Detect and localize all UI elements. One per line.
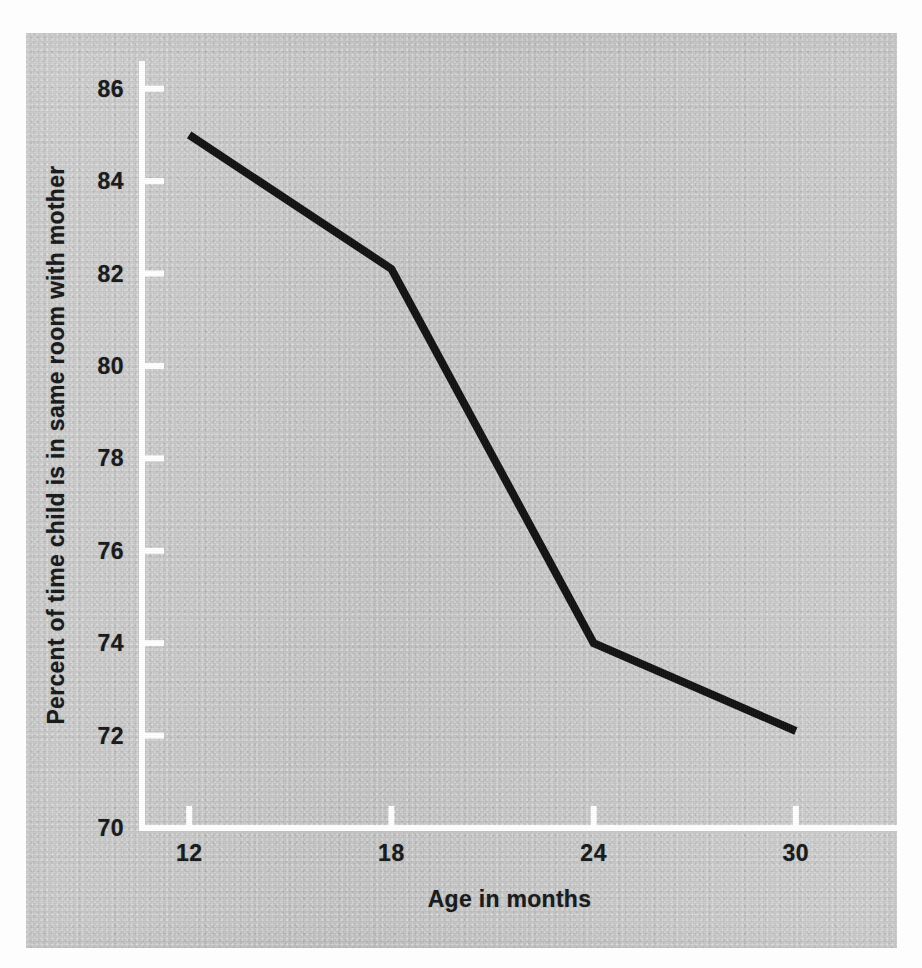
x-axis-ticks <box>189 806 796 828</box>
y-axis-ticks <box>142 89 164 736</box>
y-tick-label: 84 <box>97 168 124 195</box>
y-tick-label: 74 <box>97 630 124 657</box>
x-tick-label: 12 <box>176 840 203 867</box>
y-tick-label: 86 <box>97 75 124 102</box>
y-axis-title: Percent of time child is in same room wi… <box>43 165 70 724</box>
y-tick-label: 76 <box>97 537 124 564</box>
line-chart-canvas <box>26 33 897 948</box>
chart-panel: 707274767880828486 12182430 Percent of t… <box>26 33 897 948</box>
y-tick-label: 80 <box>97 352 124 379</box>
x-axis-title: Age in months <box>428 886 592 913</box>
x-tick-label: 24 <box>580 840 607 867</box>
x-tick-label: 18 <box>378 840 405 867</box>
figure-page: 707274767880828486 12182430 Percent of t… <box>0 0 922 968</box>
y-tick-label: 78 <box>97 445 124 472</box>
x-tick-label: 30 <box>783 840 810 867</box>
y-tick-label: 72 <box>97 722 124 749</box>
plot-area: 707274767880828486 12182430 Percent of t… <box>26 33 897 948</box>
data-series-line <box>189 135 796 731</box>
y-tick-label: 82 <box>97 260 124 287</box>
y-tick-label: 70 <box>97 815 124 842</box>
